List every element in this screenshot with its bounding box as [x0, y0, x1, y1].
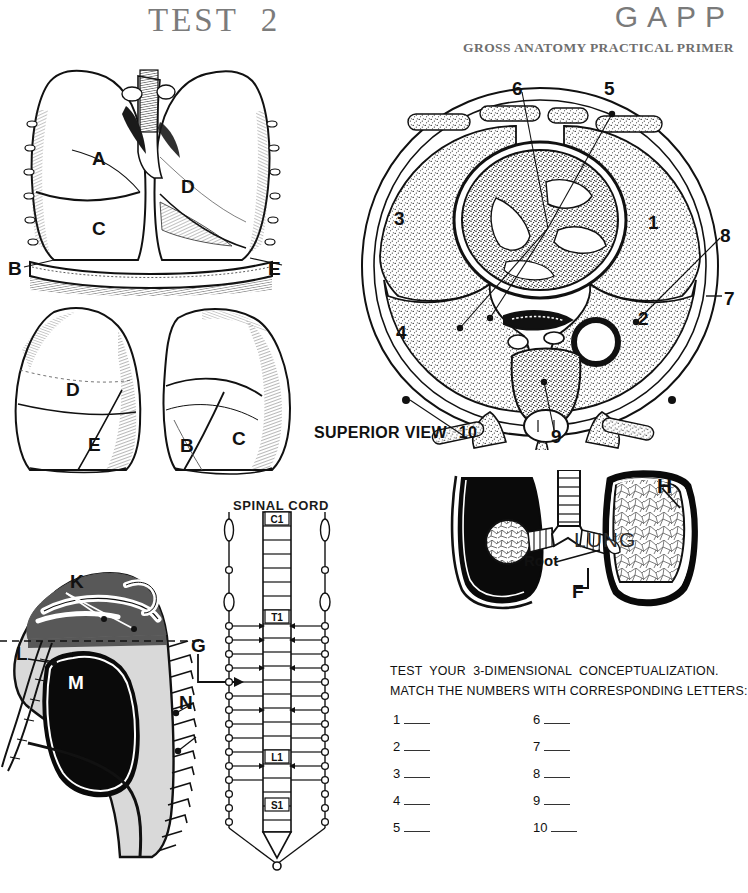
isolated-lungs-illustration: [6, 300, 306, 490]
answer-column-left: 1 2 3 4 5: [393, 712, 430, 835]
answer-blank[interactable]: [544, 740, 570, 751]
answer-blank[interactable]: [404, 821, 430, 832]
lateral-label-g: G: [191, 635, 206, 657]
lateral-label-m: M: [68, 672, 84, 694]
svg-text:S1: S1: [271, 800, 284, 811]
lateral-label-l: L: [16, 643, 28, 665]
xsec-number-6: 6: [512, 78, 523, 100]
xsec-number-1: 1: [648, 212, 659, 234]
answer-row[interactable]: 2: [393, 739, 430, 754]
answer-number: 1: [393, 712, 400, 727]
answer-number: 6: [533, 712, 540, 727]
xsec-number-3: 3: [394, 208, 405, 230]
answer-number: 5: [393, 820, 400, 835]
answer-blank[interactable]: [404, 740, 430, 751]
isolated-lung-label-d: D: [66, 379, 80, 401]
xsec-number-10: 10: [459, 424, 477, 441]
answer-row[interactable]: 10: [533, 820, 577, 835]
instruction-line-1: TEST YOUR 3-DIMENSIONAL CONCEPTUALIZATIO…: [390, 664, 719, 678]
answer-column-right: 6 7 8 9 10: [533, 712, 577, 835]
lung-label-a: A: [92, 148, 106, 170]
answer-row[interactable]: 8: [533, 766, 577, 781]
xsec-number-7: 7: [724, 288, 735, 310]
answer-row[interactable]: 9: [533, 793, 577, 808]
answer-number: 7: [533, 739, 540, 754]
lateral-thorax-illustration: [0, 555, 215, 885]
brand-subtitle: GROSS ANATOMY PRACTICAL PRIMER: [463, 40, 734, 56]
superior-view-caption: SUPERIOR VIEW10: [314, 424, 477, 442]
spinal-cord-diagram: C1 T1 L1 S1: [210, 498, 345, 883]
answer-blank[interactable]: [404, 713, 430, 724]
answer-row[interactable]: 5: [393, 820, 430, 835]
lateral-label-n: N: [179, 692, 193, 714]
instruction-line-2: MATCH THE NUMBERS WITH CORRESPONDING LET…: [390, 684, 748, 698]
xsec-number-4: 4: [396, 322, 407, 344]
svg-text:T1: T1: [271, 612, 283, 623]
lung-label-d: D: [181, 176, 195, 198]
page-title: TEST 2: [148, 2, 280, 39]
answer-blank[interactable]: [551, 821, 577, 832]
svg-text:C1: C1: [271, 514, 284, 525]
answer-number: 10: [533, 820, 547, 835]
lateral-label-k: K: [70, 571, 84, 593]
answer-blank[interactable]: [544, 794, 570, 805]
answer-number: 3: [393, 766, 400, 781]
answer-number: 8: [533, 766, 540, 781]
answer-blank[interactable]: [544, 713, 570, 724]
answer-blank[interactable]: [544, 767, 570, 778]
svg-text:L1: L1: [271, 752, 283, 763]
lung-label-f: F: [572, 581, 584, 603]
isolated-lung-label-c: C: [232, 428, 246, 450]
lung-root-label: Root: [524, 552, 558, 569]
thorax-cross-section: [340, 70, 740, 450]
isolated-lung-label-b: B: [180, 435, 194, 457]
xsec-number-8: 8: [720, 225, 731, 247]
anterior-lungs-illustration: [10, 62, 300, 297]
superior-view-text: SUPERIOR VIEW: [314, 424, 447, 441]
answer-row[interactable]: 4: [393, 793, 430, 808]
lung-label-b: B: [8, 258, 22, 280]
xsec-number-5: 5: [604, 78, 615, 100]
lung-label-e: E: [268, 258, 281, 280]
lung-text-label: LUNG: [574, 528, 636, 552]
answer-row[interactable]: 7: [533, 739, 577, 754]
xsec-number-9: 9: [551, 426, 562, 448]
isolated-lung-label-e: E: [88, 434, 101, 456]
answer-blank[interactable]: [404, 767, 430, 778]
answer-blank[interactable]: [404, 794, 430, 805]
answer-row[interactable]: 1: [393, 712, 430, 727]
lung-label-h: H: [657, 474, 672, 498]
lung-label-c: C: [92, 218, 106, 240]
answer-number: 4: [393, 793, 400, 808]
xsec-number-2: 2: [638, 308, 649, 330]
answer-number: 2: [393, 739, 400, 754]
brand-title: GAPP: [615, 0, 734, 34]
answer-row[interactable]: 6: [533, 712, 577, 727]
answer-row[interactable]: 3: [393, 766, 430, 781]
answer-number: 9: [533, 793, 540, 808]
